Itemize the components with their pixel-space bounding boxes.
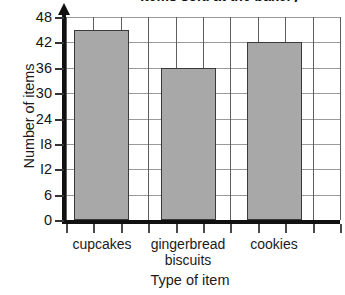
gridline-vertical [148, 17, 149, 220]
y-axis-title: Number of items [21, 31, 37, 201]
x-tick-mark [176, 224, 178, 233]
y-tick-mark [55, 220, 64, 222]
y-tick-mark [55, 144, 64, 146]
y-tick-mark [55, 119, 64, 121]
category-label-line2: biscuits [128, 252, 248, 268]
bar-cupcakes [74, 30, 129, 220]
gridline-vertical [313, 17, 314, 220]
x-tick-mark [285, 224, 287, 233]
x-tick-mark [313, 224, 315, 233]
x-tick-mark [93, 224, 95, 233]
x-tick-mark [121, 224, 123, 233]
y-tick-mark [55, 17, 64, 19]
y-tick-label-wrap: 0 [20, 213, 52, 228]
bar-cookies [247, 42, 302, 220]
chart-title-cropped: Items sold at the bakery [120, 0, 320, 2]
x-tick-mark [258, 224, 260, 233]
category-label: cookies [214, 236, 334, 252]
gridline-vertical [66, 17, 67, 220]
y-tick-mark [55, 68, 64, 70]
x-tick-mark [340, 224, 342, 233]
y-tick-mark [55, 195, 64, 197]
y-tick-label: 48 [26, 10, 52, 25]
gridline-vertical [230, 17, 231, 220]
bar-gingerbread [161, 68, 216, 220]
y-tick-mark [55, 42, 64, 44]
y-tick-mark [55, 169, 64, 171]
y-tick-label: 0 [26, 213, 52, 228]
x-tick-mark [66, 224, 68, 233]
y-axis-arrow-icon [58, 3, 70, 15]
bar-chart-figure: Items sold at the bakery 06I2I8243036424… [0, 0, 345, 295]
x-tick-mark [230, 224, 232, 233]
plot-area [66, 17, 340, 220]
y-tick-mark [55, 93, 64, 95]
gridline-vertical [340, 17, 341, 220]
x-tick-mark [148, 224, 150, 233]
x-axis-line [62, 220, 340, 224]
category-label-line1: cookies [214, 236, 334, 252]
x-tick-mark [203, 224, 205, 233]
x-axis-title: Type of item [60, 272, 320, 288]
y-tick-label-wrap: 48 [20, 10, 52, 25]
